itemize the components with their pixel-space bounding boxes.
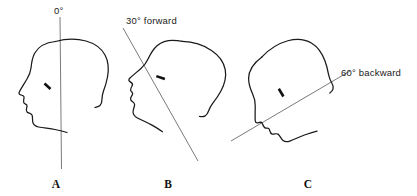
figure-canvas: 0° A 30° forward B 60° backward (0, 0, 417, 196)
panel-b-group: 30° forward B (117, 15, 233, 190)
head-crown-outline-a (56, 39, 109, 107)
angle-label-c: 60° backward (341, 67, 401, 78)
panel-c-group: 60° backward C (227, 28, 401, 190)
head-orientation-figure: 0° A 30° forward B 60° backward (0, 0, 417, 196)
angle-label-a: 0° (54, 5, 63, 16)
head-transform-b (117, 27, 233, 145)
head-profile-outline-c (229, 52, 318, 156)
head-crown-outline-c (261, 28, 341, 114)
panel-letter-b: B (164, 178, 172, 190)
panel-a-group: 0° A (19, 5, 108, 190)
reference-axis-line-b (123, 28, 198, 161)
head-profile-outline-b (117, 29, 191, 131)
angle-label-b: 30° forward (126, 15, 177, 26)
panel-letter-c: C (304, 178, 312, 190)
orientation-tick-mark-a (45, 84, 51, 90)
orientation-tick-mark-b (156, 76, 165, 79)
orientation-tick-mark-c (279, 89, 284, 97)
head-crown-outline-b (162, 39, 233, 120)
head-profile-outline-a (19, 42, 67, 133)
panel-letter-a: A (52, 178, 61, 190)
head-transform-c (227, 28, 354, 156)
